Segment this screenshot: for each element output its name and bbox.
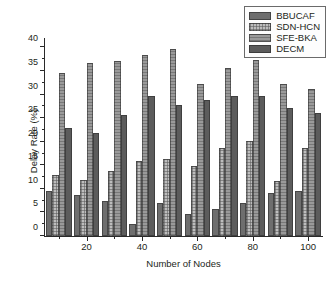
y-axis-minor-tick xyxy=(42,58,45,59)
y-axis-tick-label: 10 xyxy=(28,176,38,185)
y-axis-tick xyxy=(40,70,45,71)
y-axis-minor-tick xyxy=(42,105,45,106)
x-axis-minor-tick xyxy=(225,236,226,239)
y-axis-minor-tick xyxy=(42,176,45,177)
y-axis-tick xyxy=(40,46,45,47)
bar-decm-50 xyxy=(176,105,182,236)
x-axis-tick-label: 100 xyxy=(300,242,316,252)
legend-swatch-icon xyxy=(249,45,271,53)
y-axis-tick xyxy=(40,141,45,142)
bar-group xyxy=(46,38,71,236)
y-axis-tick xyxy=(40,94,45,95)
x-axis-tick-label: 80 xyxy=(247,242,258,252)
y-axis-tick xyxy=(40,117,45,118)
bar-decm-10 xyxy=(65,128,71,236)
y-axis-tick xyxy=(40,188,45,189)
bar-group xyxy=(102,38,127,236)
bar-decm-100 xyxy=(315,113,321,237)
y-axis-title: Delay Rate (%) xyxy=(28,108,39,172)
legend-item-sdn-hcn: SDN-HCN xyxy=(249,21,320,32)
bar-decm-40 xyxy=(148,96,154,236)
y-axis-tick-label: 5 xyxy=(33,199,38,208)
y-axis-tick xyxy=(40,211,45,212)
x-axis-title: Number of Nodes xyxy=(45,258,322,269)
plot-area: 051015202530354020406080100 xyxy=(45,38,322,236)
y-axis-minor-tick xyxy=(42,129,45,130)
legend-item-sfe-bka: SFE-BKA xyxy=(249,32,320,43)
legend-item-bbucaf: BBUCAF xyxy=(249,10,320,21)
y-axis-tick-label: 15 xyxy=(28,152,38,161)
bar-group xyxy=(129,38,154,236)
bar-decm-70 xyxy=(231,96,237,236)
y-axis-minor-tick xyxy=(42,153,45,154)
x-axis-minor-tick xyxy=(114,236,115,239)
chart-legend: BBUCAFSDN-HCNSFE-BKADECM xyxy=(244,6,326,58)
bar-decm-90 xyxy=(287,108,293,236)
y-axis-tick-label: 30 xyxy=(28,82,38,91)
x-axis-tick-label: 40 xyxy=(137,242,148,252)
y-axis-tick-label: 0 xyxy=(33,223,38,232)
bar-group xyxy=(240,38,265,236)
x-axis-tick-label: 20 xyxy=(81,242,92,252)
y-axis-tick xyxy=(40,235,45,236)
legend-swatch-icon xyxy=(249,23,271,31)
y-axis-tick-label: 35 xyxy=(28,58,38,67)
bar-group xyxy=(268,38,293,236)
y-axis-tick-label: 20 xyxy=(28,129,38,138)
legend-swatch-icon xyxy=(249,34,271,42)
legend-swatch-icon xyxy=(249,12,271,20)
x-axis-tick-label: 60 xyxy=(192,242,203,252)
bar-decm-80 xyxy=(259,96,265,236)
legend-item-label: BBUCAF xyxy=(276,11,315,21)
y-axis-tick-label: 40 xyxy=(28,34,38,43)
bar-group xyxy=(185,38,210,236)
legend-item-label: SFE-BKA xyxy=(276,33,317,43)
y-axis-minor-tick xyxy=(42,82,45,83)
delay-rate-bar-chart: Delay Rate (%) Number of Nodes 051015202… xyxy=(0,0,332,281)
x-axis-minor-tick xyxy=(280,236,281,239)
y-axis-minor-tick xyxy=(42,200,45,201)
legend-item-label: SDN-HCN xyxy=(276,22,320,32)
y-axis-tick xyxy=(40,164,45,165)
x-axis-minor-tick xyxy=(59,236,60,239)
bar-group xyxy=(295,38,320,236)
bar-group xyxy=(157,38,182,236)
bar-group xyxy=(74,38,99,236)
bar-decm-30 xyxy=(121,115,127,236)
legend-item-decm: DECM xyxy=(249,43,320,54)
legend-item-label: DECM xyxy=(276,44,304,54)
y-axis-tick-label: 25 xyxy=(28,105,38,114)
y-axis-minor-tick xyxy=(42,223,45,224)
bar-decm-60 xyxy=(204,100,210,236)
bar-group xyxy=(212,38,237,236)
x-axis-minor-tick xyxy=(170,236,171,239)
bar-decm-20 xyxy=(93,133,99,236)
